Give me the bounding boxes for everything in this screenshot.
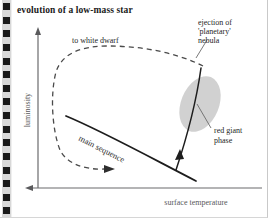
red-giant-label-line1: red giant xyxy=(214,126,243,135)
y-axis-label: luminosity xyxy=(23,93,32,127)
x-axis-label: surface temperature xyxy=(164,198,228,207)
main-sequence-curve xyxy=(66,116,196,181)
to-white-dwarf-arrowhead xyxy=(104,165,115,173)
to-white-dwarf-label: to white dwarf xyxy=(72,36,119,45)
red-giant-label-line2: phase xyxy=(214,136,233,145)
hr-diagram: luminosity surface temperature to white … xyxy=(0,0,268,218)
notebook-page: evolution of a low-mass star luminosity … xyxy=(0,0,268,218)
y-axis-arrowhead xyxy=(35,27,41,35)
main-sequence-label: main sequence xyxy=(77,133,127,165)
ejection-label-line3: nebula xyxy=(198,36,220,45)
ejection-label-line2: 'planetary' xyxy=(198,27,231,36)
ejection-label-line1: ejection of xyxy=(198,18,232,27)
x-axis-arrowhead xyxy=(25,185,33,191)
